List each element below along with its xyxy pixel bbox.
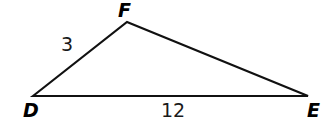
triangle-outline bbox=[33, 22, 308, 96]
vertex-label-d: D bbox=[23, 101, 39, 120]
vertex-label-e: E bbox=[307, 101, 320, 120]
vertex-label-f: F bbox=[118, 1, 131, 20]
diagram-canvas: F D E 3 12 bbox=[0, 0, 321, 126]
side-length-label-de: 12 bbox=[161, 101, 185, 120]
side-length-label-df: 3 bbox=[61, 35, 73, 54]
